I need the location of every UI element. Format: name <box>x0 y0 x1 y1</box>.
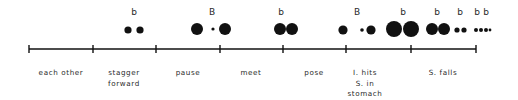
intensity-dot <box>211 27 214 30</box>
timeline-diagram: bBbBbbbbb each otherstaggerforwardpausem… <box>0 0 518 100</box>
intensity-dot <box>403 21 419 37</box>
beat-marker: B <box>354 7 360 17</box>
intensity-dot <box>191 23 203 35</box>
intensity-dot <box>474 28 478 32</box>
event-label: pose <box>304 68 324 77</box>
event-label: staggerforward <box>108 68 140 88</box>
beat-markers: bBbBbbbbb <box>131 7 489 17</box>
intensity-dot <box>136 26 143 33</box>
beat-marker: b <box>474 7 480 17</box>
event-label: each other <box>39 68 84 77</box>
intensity-dot <box>461 27 466 32</box>
intensity-dots <box>124 21 491 37</box>
intensity-dot <box>124 26 131 33</box>
intensity-dot <box>438 23 450 35</box>
event-label: I. hitsS. instomach <box>347 68 382 98</box>
event-label: pause <box>176 68 201 77</box>
intensity-dot <box>360 28 364 32</box>
intensity-dot <box>489 29 492 32</box>
beat-marker: b <box>278 7 284 17</box>
beat-marker: b <box>434 7 440 17</box>
intensity-dot <box>338 25 347 34</box>
beat-marker: b <box>457 7 463 17</box>
intensity-dot <box>454 27 459 32</box>
timeline-diagram-canvas: bBbBbbbbb each otherstaggerforwardpausem… <box>0 0 518 100</box>
beat-marker: b <box>131 7 137 17</box>
beat-marker: b <box>400 7 406 17</box>
intensity-dot <box>484 28 488 32</box>
event-label: S. falls <box>429 68 458 77</box>
event-labels: each otherstaggerforwardpausemeetposeI. … <box>39 68 458 98</box>
intensity-dot <box>479 28 483 32</box>
beat-marker: B <box>209 7 215 17</box>
intensity-dot <box>386 21 402 37</box>
intensity-dot <box>219 23 231 35</box>
beat-marker: b <box>483 7 489 17</box>
intensity-dot <box>274 23 286 35</box>
intensity-dot <box>366 25 375 34</box>
intensity-dot <box>286 23 298 35</box>
event-label: meet <box>240 68 261 77</box>
intensity-dot <box>426 23 438 35</box>
